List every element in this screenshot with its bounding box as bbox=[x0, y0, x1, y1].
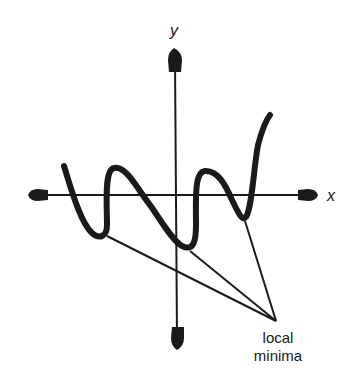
y-axis-down-arrow-icon bbox=[171, 327, 184, 350]
x-axis-left-arrow-icon bbox=[28, 189, 48, 201]
annotation-label-line2: minima bbox=[254, 347, 303, 364]
function-curve bbox=[64, 115, 270, 248]
x-axis-label: x bbox=[326, 187, 336, 204]
x-axis-right-arrow-icon bbox=[298, 189, 318, 201]
pointer-line-3 bbox=[245, 221, 276, 321]
local-minima-diagram: y x local minima bbox=[0, 0, 345, 379]
annotation-label-line1: local bbox=[263, 329, 294, 346]
y-axis-label: y bbox=[169, 22, 179, 39]
pointer-line-2 bbox=[190, 251, 276, 321]
y-axis-up-arrow-icon bbox=[168, 48, 182, 72]
annotation-pointers bbox=[107, 221, 276, 321]
y-axis bbox=[168, 48, 184, 350]
